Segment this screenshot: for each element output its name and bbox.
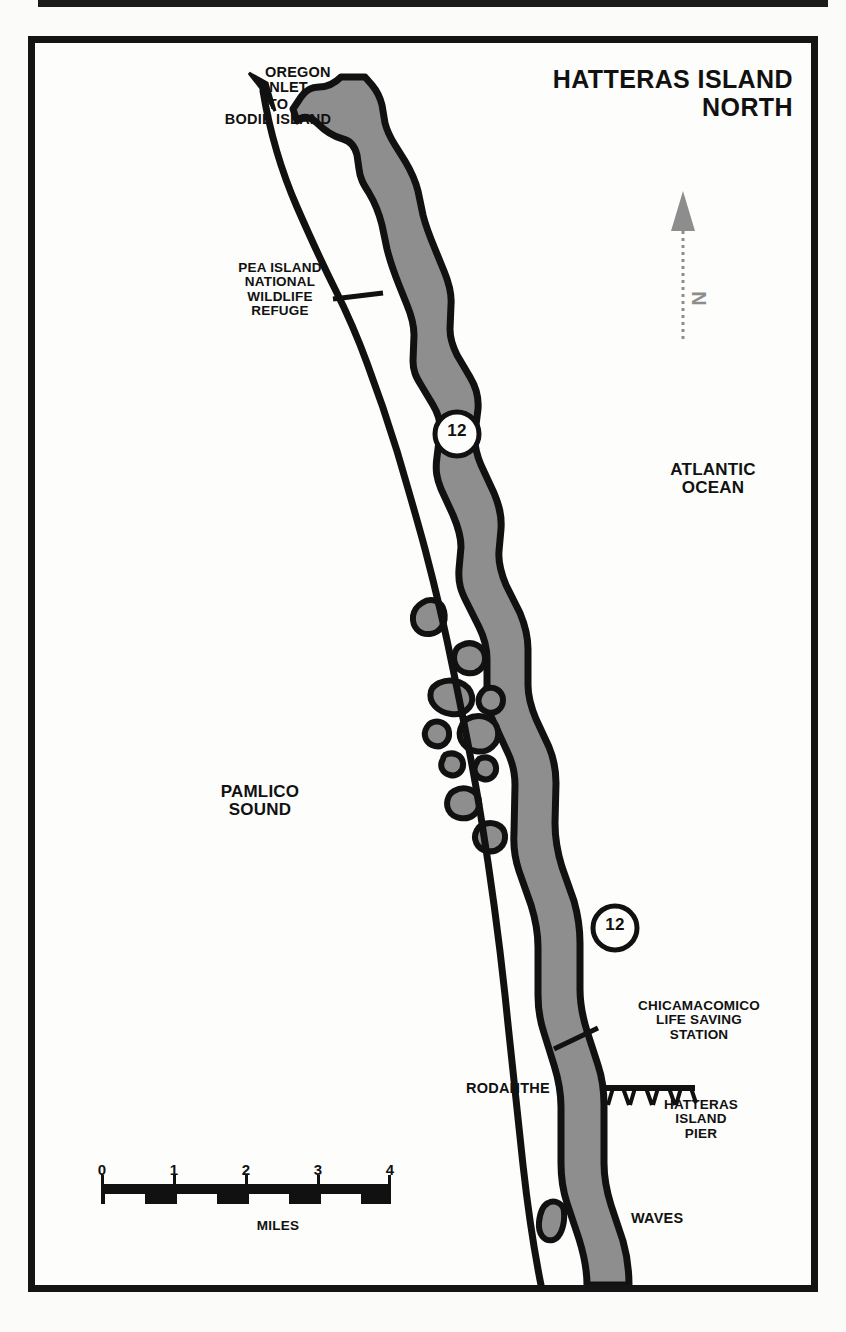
scale-bar-track — [101, 1184, 391, 1204]
scale-track-tick — [173, 1175, 176, 1188]
map-title: HATTERAS ISLAND NORTH — [553, 65, 793, 121]
label-oregon-inlet: OREGON INLET — [265, 65, 331, 96]
marsh-island-waves — [539, 1202, 564, 1241]
marsh-island — [475, 757, 497, 779]
label-miles: MILES — [213, 1219, 343, 1233]
north-letter: N — [687, 291, 710, 305]
scale-track-tick — [245, 1175, 248, 1188]
scan-top-bar — [38, 0, 828, 7]
label-pamlico-sound: PAMLICO SOUND — [193, 783, 327, 819]
marsh-island — [441, 753, 463, 775]
north-arrow: N — [685, 191, 731, 331]
scale-segment-white — [249, 1194, 289, 1205]
scale-segment-white — [177, 1194, 217, 1205]
marsh-island — [479, 688, 503, 713]
scale-bar: 0 1 2 3 4 — [101, 1161, 401, 1217]
scale-segment-white — [321, 1194, 361, 1205]
label-atlantic-ocean: ATLANTIC OCEAN — [647, 461, 779, 497]
label-to-bodie-island: TO BODIE ISLAND — [213, 97, 343, 128]
label-hatteras-island-pier: HATTERAS ISLAND PIER — [647, 1098, 755, 1141]
marsh-island — [425, 722, 449, 747]
scale-track-tick — [101, 1175, 104, 1188]
scale-bar-tick-labels: 0 1 2 3 4 — [101, 1161, 401, 1181]
scale-track-tick — [317, 1175, 320, 1188]
scale-track-tick — [388, 1175, 391, 1188]
label-waves: WAVES — [631, 1211, 731, 1226]
label-chicamacomico-life-saving-station: CHICAMACOMICO LIFE SAVING STATION — [595, 999, 803, 1042]
marsh-island — [454, 643, 485, 673]
scale-segment-white — [105, 1194, 145, 1205]
label-pea-island-national-wildlife-refuge: PEA ISLAND NATIONAL WILDLIFE REFUGE — [217, 261, 343, 318]
map-page: 12 12 HATTERAS ISLAND NORTH OREGON INLET… — [0, 0, 846, 1332]
route-shield-lower-number: 12 — [593, 916, 637, 934]
marsh-island — [430, 681, 472, 715]
route-shield-upper-number: 12 — [435, 422, 479, 440]
label-rodanthe: RODANTHE — [453, 1081, 563, 1096]
map-frame: 12 12 HATTERAS ISLAND NORTH OREGON INLET… — [28, 36, 818, 1292]
